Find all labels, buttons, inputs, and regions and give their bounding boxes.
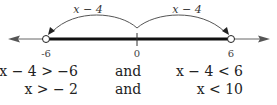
inequality-row-1: x − 4 > −6 and x − 4 < 6 — [0, 63, 277, 81]
arc-label-right: x − 4 — [172, 3, 201, 16]
left-arc-arrow-icon — [48, 27, 55, 35]
inequality-left: x − 4 > −6 — [0, 63, 78, 79]
inequality-row-2: x > − 2 and x < 10 — [0, 81, 277, 99]
inequality-right: x − 4 < 6 — [176, 63, 243, 79]
tick-label-neg6: -6 — [41, 48, 51, 59]
left-arc — [52, 15, 137, 32]
open-circle-6 — [228, 36, 235, 43]
tick-label-0: 0 — [134, 48, 140, 59]
conjunction: and — [115, 63, 141, 79]
inequality-right: x < 10 — [197, 81, 243, 97]
right-arc — [137, 15, 225, 32]
inequality-left: x > − 2 — [24, 81, 78, 97]
tick-label-6: 6 — [228, 48, 234, 59]
right-arc-arrow-icon — [222, 27, 229, 35]
conjunction: and — [115, 81, 141, 97]
arc-label-left: x − 4 — [73, 3, 102, 16]
open-circle-neg6 — [43, 36, 50, 43]
